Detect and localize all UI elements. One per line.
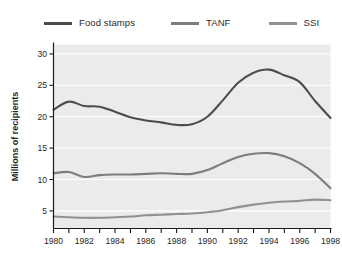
ytick-label-5: 30 <box>37 49 47 59</box>
ytick-label-2: 15 <box>37 143 47 153</box>
plot-area-wrapper: 5101520253019801982198419861988199019921… <box>0 0 342 264</box>
axis-title-group: Millions of recipients <box>10 92 20 182</box>
ytick-label-1: 10 <box>37 175 47 185</box>
xtick-label-3: 1986 <box>136 236 155 246</box>
chart-figure: Food stamps TANF SSI 5101520253019801982… <box>0 0 342 264</box>
ytick-label-0: 5 <box>42 206 47 216</box>
xtick-label-1: 1982 <box>75 236 94 246</box>
xtick-label-8: 1996 <box>290 236 309 246</box>
xtick-label-4: 1988 <box>167 236 186 246</box>
xtick-label-5: 1990 <box>198 236 217 246</box>
ytick-label-3: 20 <box>37 112 47 122</box>
chart-svg: 5101520253019801982198419861988199019921… <box>0 0 342 264</box>
xtick-label-2: 1984 <box>105 236 124 246</box>
xtick-label-0: 1980 <box>44 236 63 246</box>
xtick-label-6: 1992 <box>229 236 248 246</box>
xtick-label-9: 1998 <box>321 236 340 246</box>
xtick-label-7: 1994 <box>259 236 278 246</box>
ytick-label-4: 25 <box>37 80 47 90</box>
y-axis-title: Millions of recipients <box>10 92 20 182</box>
